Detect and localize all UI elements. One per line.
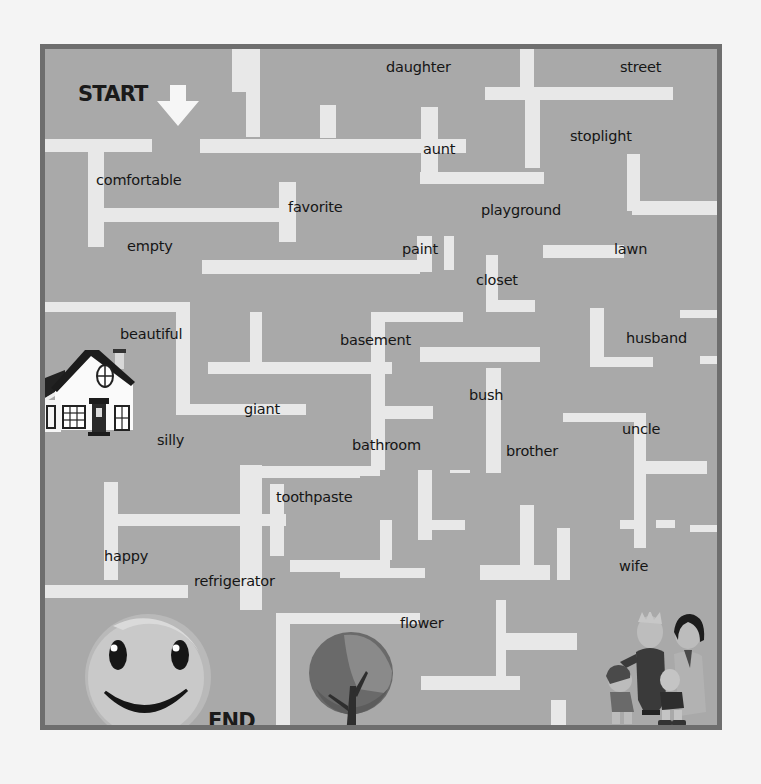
maze-wall: [202, 260, 420, 274]
maze-word-aunt: aunt: [423, 141, 455, 157]
maze-wall: [486, 368, 501, 473]
maze-wall: [420, 172, 544, 184]
maze-wall: [632, 201, 718, 215]
maze-wall: [421, 107, 438, 172]
maze-wall: [176, 302, 190, 415]
maze-wall: [646, 461, 707, 474]
maze-wall: [104, 514, 286, 526]
maze-wall: [485, 87, 673, 100]
maze-wall: [45, 302, 182, 312]
maze-word-closet: closet: [476, 272, 518, 288]
maze-wall: [382, 406, 433, 419]
tree-icon: [308, 631, 396, 730]
maze-wall: [700, 356, 718, 364]
maze-wall: [480, 565, 550, 580]
maze-word-favorite: favorite: [288, 199, 342, 215]
maze-wall: [320, 105, 336, 138]
maze-wall: [251, 466, 360, 478]
maze-word-daughter: daughter: [386, 59, 451, 75]
maze-wall: [486, 300, 535, 312]
maze-word-street: street: [620, 59, 661, 75]
end-label: END: [208, 709, 255, 730]
maze-wall: [432, 520, 465, 530]
maze-word-flower: flower: [400, 615, 444, 631]
maze-wall: [276, 613, 420, 624]
maze-word-silly: silly: [157, 432, 184, 448]
maze-wall: [250, 312, 262, 364]
maze-wall: [385, 312, 463, 322]
maze-wall: [543, 245, 624, 258]
maze-wall: [444, 236, 454, 270]
maze-wall: [290, 560, 390, 572]
house-icon: [45, 346, 140, 441]
maze-wall: [690, 525, 718, 532]
maze-wall: [504, 633, 577, 650]
maze-wall: [246, 49, 260, 137]
maze-word-toothpaste: toothpaste: [276, 489, 353, 505]
maze-board: START END daughterstreetstoplightauntcom…: [40, 44, 722, 730]
maze-wall: [551, 700, 566, 726]
maze-word-paint: paint: [402, 241, 438, 257]
maze-wall: [680, 310, 718, 318]
maze-wall: [418, 470, 432, 540]
maze-wall: [380, 520, 392, 560]
maze-word-comfortable: comfortable: [96, 172, 181, 188]
down-arrow-icon: [155, 85, 201, 127]
maze-wall: [44, 585, 188, 598]
maze-word-bathroom: bathroom: [352, 437, 421, 453]
maze-word-wife: wife: [619, 558, 648, 574]
maze-wall: [557, 528, 570, 580]
maze-wall: [420, 347, 540, 362]
maze-wall: [590, 357, 653, 367]
maze-word-beautiful: beautiful: [120, 326, 182, 342]
maze-wall: [520, 49, 534, 92]
maze-word-giant: giant: [244, 401, 280, 417]
start-label: START: [78, 82, 148, 106]
maze-word-playground: playground: [481, 202, 561, 218]
maze-wall: [525, 97, 540, 168]
maze-wall: [450, 470, 470, 473]
maze-word-basement: basement: [340, 332, 411, 348]
maze-wall: [232, 49, 248, 92]
maze-wall: [88, 149, 104, 247]
maze-wall: [176, 404, 306, 415]
maze-word-bush: bush: [469, 387, 503, 403]
maze-word-lawn: lawn: [614, 241, 647, 257]
maze-wall: [656, 520, 675, 528]
maze-wall: [421, 676, 520, 690]
maze-word-happy: happy: [104, 548, 148, 564]
maze-word-husband: husband: [626, 330, 687, 346]
smiley-face-icon: [83, 612, 213, 730]
maze-word-empty: empty: [127, 238, 173, 254]
maze-wall: [104, 482, 118, 580]
maze-wall: [620, 520, 640, 529]
family-icon: [600, 612, 710, 730]
maze-wall: [208, 362, 392, 374]
maze-word-stoplight: stoplight: [570, 128, 632, 144]
maze-word-refrigerator: refrigerator: [194, 573, 275, 589]
maze-word-uncle: uncle: [622, 421, 660, 437]
maze-wall: [276, 616, 290, 726]
maze-wall: [101, 208, 292, 222]
maze-word-brother: brother: [506, 443, 558, 459]
